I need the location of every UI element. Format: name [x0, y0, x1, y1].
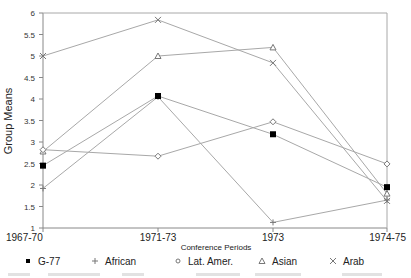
- legend-marker-icon: [176, 259, 180, 263]
- y-tick-label: 3: [31, 138, 36, 147]
- y-tick-label: 6: [31, 9, 36, 18]
- legend-item-lat-amer-: Lat. Amer.: [176, 256, 233, 267]
- legend-item-arab: Arab: [330, 256, 365, 267]
- x-axis-title: Conference Periods: [181, 243, 252, 252]
- series-lines: [43, 20, 387, 223]
- cutoff-caption-text: [0, 271, 411, 278]
- legend-item-asian: Asian: [259, 256, 297, 267]
- legend-marker-icon: [330, 258, 336, 264]
- y-tick-label: 5: [31, 52, 36, 61]
- y-tick-label: 1.5: [24, 203, 36, 212]
- legend-marker-icon: [26, 259, 30, 263]
- legend-marker-icon: [259, 258, 265, 264]
- series-markers: [40, 17, 390, 226]
- legend-item-african: African: [92, 256, 136, 267]
- y-axis-title: Group Means: [2, 87, 14, 154]
- legend-label: Asian: [272, 256, 297, 267]
- x-tick-label: 1967-70: [6, 232, 43, 243]
- series-markers-asian: [40, 44, 390, 196]
- line-chart: 11.522.533.544.555.56 1967-701971-731973…: [0, 0, 411, 278]
- series-line-african: [43, 97, 387, 223]
- legend-marker-icon: [92, 258, 98, 264]
- x-tick-label: 1971-73: [140, 232, 177, 243]
- y-tick-label: 2.5: [24, 160, 36, 169]
- legend-label: Lat. Amer.: [188, 256, 233, 267]
- x-tick-label: 1974-75: [369, 232, 406, 243]
- legend: G-77AfricanLat. Amer.AsianArab: [26, 256, 365, 267]
- legend-label: G-77: [38, 256, 61, 267]
- y-tick-label: 5.5: [24, 31, 36, 40]
- legend-label: African: [105, 256, 136, 267]
- y-tick-label: 4.5: [24, 74, 36, 83]
- y-tick-label: 2: [31, 181, 36, 190]
- y-axis: 11.522.533.544.555.56: [24, 9, 387, 233]
- x-tick-label: 1973: [262, 232, 285, 243]
- series-line-g-77: [43, 96, 387, 187]
- series-line-asian: [43, 47, 387, 193]
- y-tick-label: 3.5: [24, 117, 36, 126]
- legend-item-g-77: G-77: [26, 256, 61, 267]
- legend-label: Arab: [343, 256, 365, 267]
- y-tick-label: 4: [31, 95, 36, 104]
- series-line-arab: [43, 20, 387, 201]
